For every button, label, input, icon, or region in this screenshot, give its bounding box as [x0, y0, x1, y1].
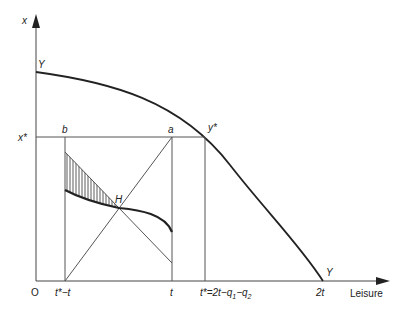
a-label: a: [168, 124, 174, 135]
x-axis: [36, 277, 390, 285]
x-star-tick-label: x*: [17, 132, 28, 143]
y-axis-arrow-icon: [32, 14, 40, 28]
origin-label: O: [31, 287, 39, 298]
two-t-label: 2t: [315, 287, 326, 298]
y-axis: [32, 14, 40, 281]
hatched-region: [67, 140, 115, 220]
y-star-label: y*: [207, 122, 218, 133]
t-star-minus-t-label: t*−t: [55, 287, 72, 298]
ppf-bottom-label: Y: [326, 267, 334, 278]
t-star-formula-prefix: t*=2t−q: [200, 287, 233, 298]
h-label: H: [115, 194, 123, 205]
b-label: b: [62, 124, 68, 135]
y-axis-label: x: [21, 15, 28, 26]
ppf-top-label: Y: [38, 59, 46, 70]
t-star-formula-sub2: 2: [247, 293, 252, 300]
t-star-formula-mid: −q: [236, 287, 248, 298]
t-star-formula-label: t*=2t−q1−q2: [200, 287, 252, 300]
t-label: t: [170, 287, 174, 298]
x-axis-arrow-icon: [376, 277, 390, 285]
diagram-canvas: x Y x* b a y* H Y O t*−t t t*=2t−q1−q2 2…: [0, 0, 403, 310]
x-axis-label: Leisure: [350, 288, 383, 299]
